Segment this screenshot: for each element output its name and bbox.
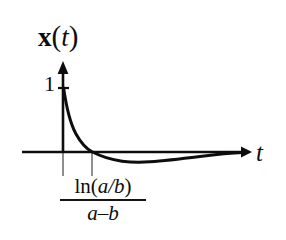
fraction-denominator: a–b	[60, 203, 146, 224]
y-axis-label-function: x	[38, 22, 52, 52]
math-figure: x(t) t 1 ln(a/b) a–b	[0, 0, 286, 240]
fraction-numerator: ln(a/b)	[60, 176, 146, 198]
fraction-denominator-b: b	[108, 201, 119, 225]
fraction-minus: –	[98, 201, 109, 225]
fraction-close-paren: )	[125, 174, 132, 198]
y-axis-label: x(t)	[38, 22, 78, 51]
fraction-ln: ln	[74, 174, 90, 198]
y-axis-label-open-paren: (	[52, 20, 62, 52]
zero-crossing-annotation: ln(a/b) a–b	[60, 176, 146, 224]
fraction-numerator-a: a	[98, 174, 109, 198]
y-tick-label-one: 1	[44, 73, 55, 95]
fraction-numerator-b: b	[114, 174, 125, 198]
fraction-open-paren: (	[91, 174, 98, 198]
y-axis-label-close-paren: )	[69, 20, 79, 52]
fraction-denominator-a: a	[87, 201, 98, 225]
y-axis-arrowhead	[58, 61, 69, 74]
y-axis-label-variable: t	[61, 22, 69, 52]
x-axis-label: t	[256, 140, 263, 165]
